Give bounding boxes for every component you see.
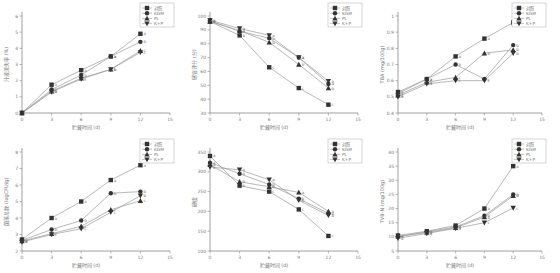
x-tick-label: 3 bbox=[238, 255, 241, 260]
series-0: abccc bbox=[208, 19, 334, 107]
significance-label: c bbox=[459, 78, 461, 83]
chart-svg: 0369121530405060708090100贮藏时间 (d)感官评分 (分… bbox=[188, 0, 376, 135]
chart-sensory-score: 0369121530405060708090100贮藏时间 (d)感官评分 (分… bbox=[188, 0, 376, 135]
y-tick-label: 350 bbox=[197, 150, 206, 155]
x-tick-label: 15 bbox=[167, 117, 173, 122]
x-axis-label: 贮藏时间 (d) bbox=[72, 124, 101, 131]
y-axis-label: 感官评分 (分) bbox=[191, 49, 198, 80]
x-axis-label: 贮藏时间 (d) bbox=[446, 124, 475, 131]
x-tick-label: 9 bbox=[297, 255, 300, 260]
significance-label: c bbox=[487, 78, 489, 83]
y-tick-label: 3 bbox=[15, 232, 18, 237]
x-tick-label: 3 bbox=[425, 117, 428, 122]
significance-label: b bbox=[516, 193, 519, 198]
x-tick-label: 0 bbox=[397, 117, 400, 122]
significance-label: c bbox=[143, 50, 145, 55]
y-tick-label: 250 bbox=[197, 189, 206, 194]
series-0: aaaaa bbox=[396, 20, 519, 95]
series-2: aaabb bbox=[395, 193, 519, 239]
x-tick-label: 12 bbox=[326, 255, 332, 260]
x-tick-label: 3 bbox=[50, 255, 53, 260]
x-tick-label: 0 bbox=[21, 117, 24, 122]
significance-label: b bbox=[243, 179, 246, 184]
significance-label: b bbox=[143, 193, 146, 198]
legend-entry: K+P bbox=[154, 157, 163, 162]
y-tick-label: 30 bbox=[388, 178, 394, 183]
significance-label: b bbox=[272, 40, 275, 45]
y-tick-label: 70 bbox=[200, 55, 206, 60]
x-tick-label: 0 bbox=[397, 255, 400, 260]
y-tick-label: 2 bbox=[15, 78, 18, 83]
chart-svg: 036912150.40.50.60.70.80.91贮藏时间 (d)TBA (… bbox=[376, 0, 560, 135]
x-axis-label: 贮藏时间 (d) bbox=[260, 262, 289, 269]
y-tick-label: 0.7 bbox=[387, 62, 394, 67]
significance-label: c bbox=[272, 189, 274, 194]
significance-label: b bbox=[143, 39, 146, 44]
significance-label: b bbox=[302, 198, 305, 203]
y-axis-label: TVB-N (mg/100g) bbox=[379, 180, 386, 224]
x-axis-label: 贮藏时间 (d) bbox=[72, 262, 101, 269]
x-tick-label: 0 bbox=[21, 255, 24, 260]
significance-label: a bbox=[272, 33, 275, 38]
significance-label: a bbox=[487, 206, 490, 211]
y-tick-label: 5 bbox=[15, 30, 18, 35]
significance-label: c bbox=[516, 206, 518, 211]
y-tick-label: 5 bbox=[391, 249, 394, 254]
chart-svg: 036912152345678贮藏时间 (d)菌落总数 (logCFU/g)aa… bbox=[0, 136, 188, 273]
y-tick-label: 8 bbox=[15, 150, 18, 155]
y-tick-label: 300 bbox=[197, 169, 206, 174]
significance-label: c bbox=[302, 86, 304, 91]
legend: 对照KGMPLK+P bbox=[328, 3, 362, 27]
significance-label: b bbox=[459, 62, 462, 67]
axes: 0369121530405060708090100 bbox=[197, 12, 361, 122]
y-tick-label: 80 bbox=[200, 41, 206, 46]
significance-label: a bbox=[243, 26, 246, 31]
significance-label: a bbox=[302, 190, 305, 195]
y-tick-label: 20 bbox=[388, 206, 394, 211]
x-tick-label: 0 bbox=[209, 255, 212, 260]
legend: 对照KGMPLK+P bbox=[140, 3, 174, 27]
significance-label: c bbox=[84, 226, 86, 231]
y-axis-label: TBA (mg/100g) bbox=[379, 46, 386, 85]
x-tick-label: 6 bbox=[454, 255, 457, 260]
legend-entry: K+P bbox=[526, 157, 535, 162]
significance-label: a bbox=[143, 163, 146, 168]
x-tick-label: 9 bbox=[297, 117, 300, 122]
significance-label: a bbox=[401, 236, 404, 241]
x-tick-label: 9 bbox=[483, 117, 486, 122]
y-tick-label: 5 bbox=[15, 199, 18, 204]
axes: 03691215100150200250300350 bbox=[197, 148, 361, 260]
y-tick-label: 4 bbox=[15, 216, 18, 221]
y-tick-label: 150 bbox=[197, 229, 206, 234]
y-tick-label: 0 bbox=[15, 111, 18, 116]
y-axis-label: 菌落总数 (logCFU/g) bbox=[3, 177, 10, 225]
chart-svg: 036912150123456贮藏时间 (d)汁液流失率 (%)aaaabbab… bbox=[0, 0, 188, 135]
series-1: aaaaa bbox=[208, 18, 335, 86]
x-tick-label: 3 bbox=[238, 117, 241, 122]
series-2: bcbc bbox=[19, 48, 145, 115]
y-tick-label: 10 bbox=[388, 234, 394, 239]
significance-label: a bbox=[114, 178, 117, 183]
y-tick-label: 30 bbox=[200, 111, 206, 116]
y-tick-label: 200 bbox=[197, 209, 206, 214]
significance-label: b bbox=[331, 213, 334, 218]
significance-label: c bbox=[302, 207, 304, 212]
x-tick-label: 9 bbox=[109, 255, 112, 260]
x-tick-label: 12 bbox=[326, 117, 332, 122]
y-tick-label: 0.8 bbox=[387, 46, 394, 51]
y-tick-label: 90 bbox=[200, 27, 206, 32]
chart-grid: 036912150123456贮藏时间 (d)汁液流失率 (%)aaaabbab… bbox=[0, 0, 560, 273]
legend: 对照KGMPLK+P bbox=[140, 139, 174, 163]
significance-label: a bbox=[84, 199, 87, 204]
x-tick-label: 6 bbox=[454, 117, 457, 122]
x-tick-label: 6 bbox=[80, 117, 83, 122]
series-1: abbbb bbox=[20, 189, 147, 243]
axes: 036912150.40.50.60.70.80.91 bbox=[387, 12, 545, 122]
legend-entry: K+P bbox=[154, 21, 163, 26]
x-tick-label: 0 bbox=[209, 117, 212, 122]
significance-label: b bbox=[516, 51, 519, 56]
significance-label: b bbox=[487, 51, 490, 56]
chart-tvbn: 03691215510152025303540贮藏时间 (d)TVB-N (mg… bbox=[376, 136, 560, 273]
legend: 对照KGMPLK+P bbox=[512, 139, 546, 163]
x-tick-label: 3 bbox=[50, 117, 53, 122]
